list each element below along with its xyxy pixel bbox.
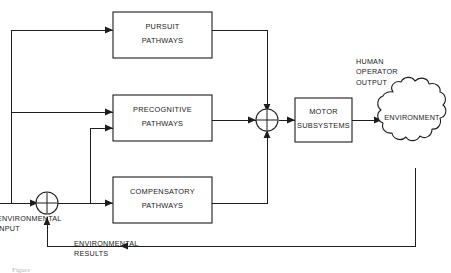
block-pursuit-line1: PURSUIT bbox=[145, 22, 179, 31]
human-operator-output-line3: OUTPUT bbox=[356, 78, 387, 87]
arrowhead-precognitive-in-upper bbox=[105, 109, 113, 116]
figure-caption: Figure bbox=[12, 266, 30, 273]
label-human-operator-output: HUMAN OPERATOR OUTPUT bbox=[356, 57, 398, 87]
label-environmental-input: ENVIRONMENTAL INPUT bbox=[0, 214, 62, 234]
block-pursuit[interactable]: PURSUIT PATHWAYS bbox=[113, 12, 212, 58]
block-pursuit-line2: PATHWAYS bbox=[142, 36, 184, 45]
arrowhead-compensatory-in bbox=[105, 200, 113, 207]
environment-outline bbox=[378, 77, 446, 140]
block-motor-line1: MOTOR bbox=[309, 107, 338, 116]
block-diagram-svg: PURSUIT PATHWAYS PRECOGNITIVE PATHWAYS C… bbox=[0, 0, 451, 273]
environment-label: ENVIRONMENT bbox=[384, 113, 440, 122]
output-sum-junction bbox=[256, 109, 278, 131]
input-sum-junction bbox=[36, 192, 58, 214]
diagram-canvas: PURSUIT PATHWAYS PRECOGNITIVE PATHWAYS C… bbox=[0, 0, 451, 273]
block-compensatory[interactable]: COMPENSATORY PATHWAYS bbox=[113, 177, 212, 223]
human-operator-output-line2: OPERATOR bbox=[356, 67, 398, 76]
arrowhead-output-sum-left bbox=[248, 117, 256, 124]
label-environmental-results: ENVIRONMENTAL RESULTS bbox=[74, 239, 139, 259]
wire-pursuit-to-sum bbox=[212, 30, 267, 112]
figure-caption-text: Figure bbox=[12, 266, 30, 273]
environmental-input-line2: INPUT bbox=[0, 224, 20, 233]
environment-blob[interactable]: ENVIRONMENT bbox=[378, 77, 446, 140]
environmental-results-line2: RESULTS bbox=[74, 249, 108, 258]
block-compensatory-line2: PATHWAYS bbox=[142, 201, 184, 210]
environmental-input-line1: ENVIRONMENTAL bbox=[0, 214, 62, 223]
block-precognitive-line1: PRECOGNITIVE bbox=[133, 105, 192, 114]
block-precognitive-line2: PATHWAYS bbox=[142, 119, 184, 128]
wire-compensatory-to-sum bbox=[212, 130, 267, 203]
arrowhead-pursuit-in bbox=[105, 27, 113, 34]
environmental-results-line1: ENVIRONMENTAL bbox=[74, 239, 139, 248]
block-precognitive[interactable]: PRECOGNITIVE PATHWAYS bbox=[113, 95, 212, 141]
human-operator-output-line1: HUMAN bbox=[356, 57, 384, 66]
arrowhead-precognitive-in-lower bbox=[105, 125, 113, 132]
arrowhead-motor-in bbox=[287, 117, 295, 124]
block-motor-line2: SUBSYSTEMS bbox=[297, 121, 350, 130]
block-motor-subsystems[interactable]: MOTOR SUBSYSTEMS bbox=[295, 98, 352, 142]
block-compensatory-line1: COMPENSATORY bbox=[130, 187, 195, 196]
wire-branch-to-precognitive-lower bbox=[90, 128, 113, 203]
